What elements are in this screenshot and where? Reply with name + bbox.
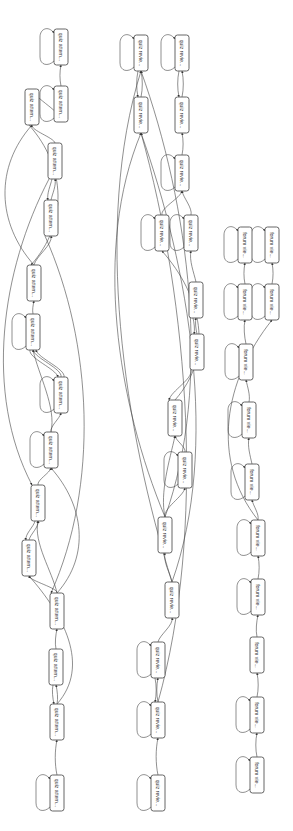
node-label: quiz revie... — [179, 102, 185, 129]
self-loop-edge — [137, 642, 151, 678]
transition-edge — [29, 576, 57, 593]
transition-edge — [55, 629, 57, 649]
transition-edge — [33, 301, 34, 314]
activity-node[interactable]: quiz attem... — [26, 314, 40, 350]
node-label: quiz revie... — [179, 40, 185, 67]
activity-node[interactable]: quiz revie... — [134, 35, 148, 71]
node-label: forum vie... — [242, 232, 248, 258]
node-label: forum vie... — [242, 289, 248, 315]
transition-edge — [158, 618, 172, 642]
activity-node[interactable]: forum vie... — [238, 227, 252, 263]
transition-edge — [182, 191, 191, 215]
activity-node[interactable]: quiz attem... — [31, 485, 45, 521]
activity-node[interactable]: quiz revie... — [151, 702, 165, 738]
activity-node[interactable]: quiz revie... — [165, 582, 179, 618]
activity-node[interactable]: quiz attem... — [22, 540, 36, 576]
transition-edge — [141, 133, 196, 582]
transition-edge — [56, 685, 58, 704]
activity-node[interactable]: forum vie... — [251, 520, 265, 556]
transition-edge — [165, 488, 185, 517]
transition-edge — [155, 678, 156, 702]
activity-node[interactable]: quiz revie... — [134, 97, 148, 133]
activity-node[interactable]: forum vie... — [265, 284, 279, 320]
node-label: quiz attem... — [48, 204, 54, 232]
transition-edge — [182, 133, 183, 155]
activity-node[interactable]: quiz revie... — [175, 155, 189, 191]
transition-edge — [182, 71, 183, 97]
activity-node[interactable]: forum vie... — [239, 344, 253, 380]
node-label: forum vie... — [249, 469, 255, 495]
transition-edge — [34, 236, 51, 265]
node-label: forum vie... — [255, 584, 261, 610]
transition-edge — [48, 179, 52, 200]
node-label: quiz attem... — [58, 33, 64, 61]
node-label: quiz revie... — [138, 102, 144, 129]
node-label: quiz attem... — [54, 597, 60, 625]
transition-edge — [52, 685, 54, 704]
transition-edge — [51, 468, 79, 593]
activity-node[interactable]: quiz attem... — [54, 377, 68, 413]
activity-node[interactable]: quiz revie... — [175, 35, 189, 71]
activity-node[interactable]: quiz revie... — [184, 215, 198, 251]
activity-node[interactable]: quiz attem... — [54, 29, 68, 65]
node-label: quiz attem... — [58, 90, 64, 118]
activity-node[interactable]: quiz attem... — [50, 704, 64, 740]
node-label: quiz attem... — [29, 93, 35, 121]
activity-node[interactable]: quiz attem... — [48, 143, 62, 179]
node-label: quiz attem... — [54, 779, 60, 807]
self-loop-edge — [12, 314, 26, 350]
self-loop-edge — [251, 284, 265, 320]
node-label: quiz attem... — [35, 489, 41, 517]
node-label: quiz attem... — [52, 147, 58, 175]
activity-node[interactable]: quiz attem... — [49, 649, 63, 685]
activity-node[interactable]: quiz revie... — [168, 400, 182, 436]
activity-node[interactable]: quiz revie... — [155, 215, 169, 251]
node-label: forum vie... — [254, 642, 260, 668]
activity-node[interactable]: forum vie... — [251, 579, 265, 615]
transition-edge — [32, 125, 55, 143]
activity-node[interactable]: quiz revie... — [190, 334, 204, 370]
transition-edge — [256, 615, 258, 637]
activity-node[interactable]: quiz revie... — [151, 775, 165, 811]
activity-node[interactable]: quiz attem... — [27, 265, 41, 301]
activity-node[interactable]: quiz revie... — [175, 97, 189, 133]
activity-node[interactable]: forum vie... — [245, 464, 259, 500]
activity-node[interactable]: quiz revie... — [158, 517, 172, 553]
transition-edge — [252, 500, 258, 520]
activity-node[interactable]: quiz attem... — [25, 89, 39, 125]
activity-node[interactable]: forum vie... — [250, 637, 264, 673]
node-label: quiz revie... — [162, 522, 168, 549]
self-loop-edge — [251, 227, 265, 263]
nodes-layer: quiz attem...quiz attem...quiz attem...q… — [22, 29, 279, 811]
activity-node[interactable]: forum vie... — [238, 284, 252, 320]
transition-edge — [60, 65, 61, 86]
node-label: quiz revie... — [193, 287, 199, 314]
self-loop-edge — [231, 464, 245, 500]
activity-node[interactable]: forum vie... — [265, 227, 279, 263]
activity-node[interactable]: quiz revie... — [151, 642, 165, 678]
self-loop-edge — [228, 402, 242, 438]
node-label: quiz revie... — [194, 339, 200, 366]
activity-node[interactable]: forum vie... — [250, 757, 264, 793]
transition-edge — [244, 263, 245, 284]
node-label: forum vie... — [254, 762, 260, 788]
transition-edge — [246, 380, 249, 402]
transition-edge — [5, 125, 34, 265]
node-label: quiz revie... — [179, 160, 185, 187]
transition-edge — [45, 236, 84, 593]
activity-node[interactable]: quiz revie... — [178, 452, 192, 488]
node-label: quiz revie... — [155, 647, 161, 674]
self-loop-edge — [224, 227, 238, 263]
transition-edge — [257, 673, 258, 697]
activity-node[interactable]: quiz attem... — [54, 86, 68, 122]
node-label: forum vie... — [246, 407, 252, 433]
activity-node[interactable]: quiz attem... — [50, 593, 64, 629]
activity-node[interactable]: forum vie... — [242, 402, 256, 438]
activity-node[interactable]: quiz attem... — [44, 432, 58, 468]
activity-node[interactable]: forum vie... — [250, 697, 264, 733]
transition-edge — [169, 370, 191, 400]
activity-node[interactable]: quiz attem... — [50, 775, 64, 811]
activity-node[interactable]: quiz revie... — [189, 282, 203, 318]
self-loop-edge — [236, 757, 250, 793]
activity-node[interactable]: quiz attem... — [44, 200, 58, 236]
